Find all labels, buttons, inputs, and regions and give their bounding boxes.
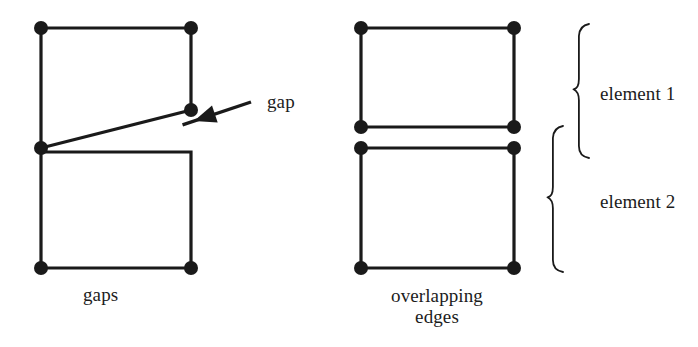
element-1-label: element 1 <box>600 84 675 104</box>
mesh-node <box>354 21 368 35</box>
mesh-node <box>507 21 521 35</box>
left-upper-quad-element-1 <box>41 28 191 148</box>
right-diagram-group <box>354 21 589 275</box>
mesh-node <box>184 261 198 275</box>
mesh-node <box>34 261 48 275</box>
mesh-node <box>184 21 198 35</box>
mesh-node <box>507 261 521 275</box>
mesh-node <box>507 141 521 155</box>
right-upper-quad-element-1 <box>361 28 514 127</box>
mesh-node <box>354 261 368 275</box>
gaps-caption-label: gaps <box>83 285 118 305</box>
mesh-node <box>34 141 48 155</box>
overlapping-edges-caption-label: overlappingedges <box>387 285 487 327</box>
overlapping-edges-caption-line-2: edges <box>415 306 459 327</box>
element-1-brace-icon <box>574 24 590 158</box>
mesh-node <box>354 120 368 134</box>
mesh-node <box>507 120 521 134</box>
element-2-label: element 2 <box>600 192 675 212</box>
right-lower-quad-element-2 <box>361 148 514 268</box>
mesh-node <box>34 21 48 35</box>
right-lower-quad-nodes <box>354 141 521 275</box>
left-lower-quad-element-2 <box>41 152 191 268</box>
left-upper-quad-nodes <box>34 21 198 155</box>
mesh-node <box>354 141 368 155</box>
left-diagram-group <box>34 21 251 275</box>
overlapping-edges-caption-line-1: overlapping <box>391 285 483 306</box>
mesh-node <box>184 103 198 117</box>
figure-root: gap gaps overlappingedges element 1 elem… <box>0 0 698 347</box>
right-upper-quad-nodes <box>354 21 521 134</box>
element-2-brace-icon <box>548 126 564 272</box>
gap-callout-label: gap <box>267 92 295 112</box>
